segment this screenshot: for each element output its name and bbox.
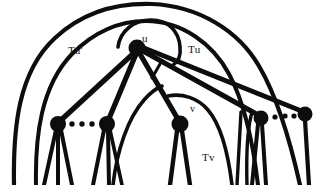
vertex-label-v: v [190,104,195,114]
right-ellipsis-icon [272,113,296,119]
left-ellipsis-icon [69,121,94,126]
leaf-leg [93,130,104,185]
leaf-leg [108,131,109,185]
ellipsis-dot [282,113,287,118]
ellipsis-dot [69,121,74,126]
vertex-label-u: u [142,33,148,44]
leaf-leg [182,131,190,185]
edge-u-c4 [143,51,260,116]
vertex-c2[interactable] [99,116,115,132]
leaf-leg [262,124,266,185]
vertex-c4[interactable] [254,111,269,126]
ellipsis-dot [272,114,277,119]
vertex-c5[interactable] [298,107,313,122]
graph-canvas [0,0,317,185]
ellipsis-dot [89,121,94,126]
leaf-leg [305,120,309,185]
region-label-tu: Tu [188,44,200,55]
graph-figure: u Tu' Tu v Tv [0,0,317,185]
vertex-v[interactable] [172,116,189,133]
vertex-c1[interactable] [50,116,66,132]
leaf-leg [61,130,72,185]
ellipsis-dot [79,121,84,126]
leaf-leg [44,130,56,185]
edge-tick-icon [152,64,160,78]
leaf-leg [237,112,241,185]
region-label-tv: Tv [202,152,215,163]
leaf-leg [110,130,122,185]
ellipsis-dot [291,113,296,118]
region-label-tu-prime: Tu' [68,45,83,56]
leaf-leg [170,131,177,185]
